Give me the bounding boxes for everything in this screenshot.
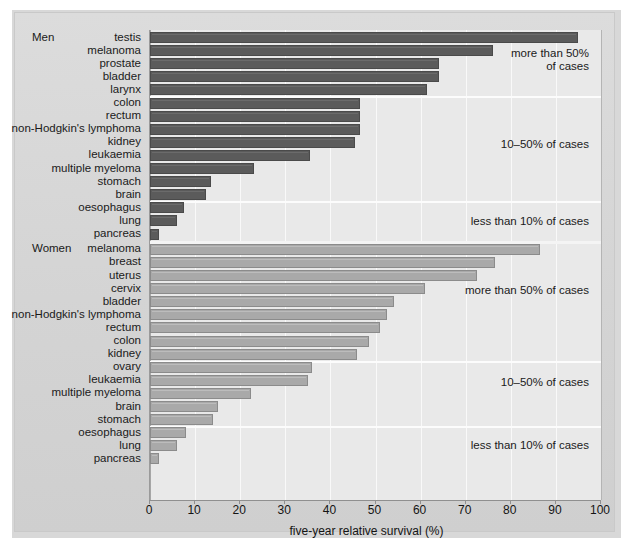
bar-men-non-hodgkin-s-lymphoma — [150, 124, 360, 135]
category-label-women-4: bladder — [103, 296, 141, 307]
category-label-men-11: stomach — [98, 176, 141, 187]
category-label-women-12: brain — [115, 401, 141, 412]
annotation-men-less-than-10: less than 10% of cases — [471, 215, 589, 228]
bar-women-bladder — [150, 296, 394, 307]
annotation-women-more-than-50: more than 50% of cases — [465, 284, 589, 297]
bar-women-melanoma — [150, 244, 540, 255]
category-label-women-14: oesophagus — [78, 427, 141, 438]
tick-label-90: 90 — [535, 504, 575, 517]
chart-figure: testismelanomaprostatebladderlarynxcolon… — [12, 10, 621, 538]
category-label-column: testismelanomaprostatebladderlarynxcolon… — [14, 12, 145, 532]
bar-men-pancreas — [150, 229, 159, 240]
category-label-men-13: oesophagus — [78, 202, 141, 213]
annotation-women-10-50: 10–50% of cases — [501, 376, 589, 389]
tick-label-100: 100 — [580, 504, 620, 517]
category-label-women-16: pancreas — [94, 453, 141, 464]
bar-men-lung — [150, 215, 177, 226]
gridline-100 — [601, 30, 602, 500]
bar-men-brain — [150, 189, 206, 200]
category-label-men-5: colon — [114, 97, 142, 108]
bar-women-uterus — [150, 270, 477, 281]
bar-women-kidney — [150, 349, 357, 360]
tick-label-40: 40 — [309, 504, 349, 517]
annotation-men-10-50: 10–50% of cases — [501, 138, 589, 151]
tick-label-50: 50 — [355, 504, 395, 517]
group-label-men: Men — [32, 32, 54, 43]
bar-men-stomach — [150, 176, 211, 187]
bar-women-multiple-myeloma — [150, 388, 251, 399]
category-label-women-8: kidney — [108, 348, 141, 359]
gridline-90 — [556, 30, 557, 500]
plot-area: more than 50% of cases 10–50% of cases l… — [149, 30, 601, 500]
category-label-women-7: colon — [114, 335, 142, 346]
bar-men-leukaemia — [150, 150, 310, 161]
category-label-men-2: prostate — [99, 58, 141, 69]
bar-women-pancreas — [150, 453, 159, 464]
tick-label-30: 30 — [264, 504, 304, 517]
bar-women-ovary — [150, 362, 312, 373]
category-label-women-0: melanoma — [87, 243, 141, 254]
group-label-women: Women — [32, 243, 71, 254]
annotation-men-more-than-50: more than 50% of cases — [511, 47, 589, 73]
tick-label-80: 80 — [490, 504, 530, 517]
bar-women-stomach — [150, 414, 213, 425]
bar-men-rectum — [150, 111, 360, 122]
tick-label-60: 60 — [400, 504, 440, 517]
bar-women-rectum — [150, 322, 380, 333]
band-separator — [150, 201, 601, 203]
bar-women-cervix — [150, 283, 425, 294]
bar-women-colon — [150, 336, 369, 347]
category-label-women-13: stomach — [98, 414, 141, 425]
chart-figure-panel: testismelanomaprostatebladderlarynxcolon… — [14, 12, 615, 532]
bar-men-multiple-myeloma — [150, 163, 254, 174]
bar-men-prostate — [150, 58, 439, 69]
category-label-women-1: breast — [109, 256, 141, 267]
tick-label-10: 10 — [174, 504, 214, 517]
bar-women-leukaemia — [150, 375, 308, 386]
x-axis-title: five-year relative survival (%) — [290, 524, 444, 538]
bar-men-larynx — [150, 84, 427, 95]
category-label-men-8: kidney — [108, 136, 141, 147]
bar-men-colon — [150, 98, 360, 109]
category-label-men-7: non-Hodgkin's lymphoma — [12, 123, 141, 134]
tick-label-70: 70 — [445, 504, 485, 517]
category-label-men-6: rectum — [106, 110, 141, 121]
category-label-men-12: brain — [115, 189, 141, 200]
bar-women-brain — [150, 401, 218, 412]
bar-women-non-hodgkin-s-lymphoma — [150, 309, 387, 320]
category-label-men-0: testis — [114, 32, 141, 43]
bar-men-melanoma — [150, 45, 493, 56]
category-label-men-14: lung — [119, 215, 141, 226]
bar-men-bladder — [150, 71, 439, 82]
category-label-women-6: rectum — [106, 322, 141, 333]
bar-women-lung — [150, 440, 177, 451]
category-label-women-15: lung — [119, 440, 141, 451]
category-label-men-4: larynx — [110, 84, 141, 95]
tick-label-20: 20 — [219, 504, 259, 517]
annotation-women-less-than-10: less than 10% of cases — [471, 439, 589, 452]
category-label-women-9: ovary — [113, 361, 141, 372]
bar-men-testis — [150, 32, 578, 43]
category-label-women-5: non-Hodgkin's lymphoma — [12, 309, 141, 320]
category-label-women-3: cervix — [111, 283, 141, 294]
bar-men-kidney — [150, 137, 355, 148]
category-label-women-11: multiple myeloma — [52, 387, 141, 398]
category-label-men-15: pancreas — [94, 228, 141, 239]
tick-label-0: 0 — [129, 504, 169, 517]
bar-men-oesophagus — [150, 202, 184, 213]
category-label-men-3: bladder — [103, 71, 141, 82]
category-label-women-2: uterus — [109, 270, 141, 281]
category-label-men-1: melanoma — [87, 45, 141, 56]
category-label-men-9: leukaemia — [89, 149, 141, 160]
category-label-men-10: multiple myeloma — [52, 163, 141, 174]
gridline-80 — [511, 30, 512, 500]
bar-women-breast — [150, 257, 495, 268]
category-label-women-10: leukaemia — [89, 374, 141, 385]
band-separator — [150, 426, 601, 428]
bar-women-oesophagus — [150, 427, 186, 438]
